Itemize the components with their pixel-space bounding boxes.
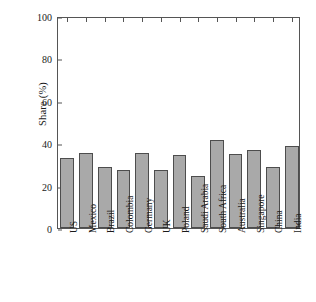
x-tick-label: India: [294, 213, 304, 233]
x-tick-label: Colombia: [126, 196, 136, 233]
x-tick-mark-top: [217, 18, 218, 22]
x-tick-mark-top: [105, 18, 106, 22]
x-tick-mark-top: [180, 18, 181, 22]
bar-chart-figure: Share (%) 020406080100 USMexicoBrazilCol…: [0, 0, 316, 302]
y-tick-label: 20: [42, 183, 58, 193]
x-tick-label: China: [275, 210, 285, 233]
x-tick-mark-top: [161, 18, 162, 22]
x-tick-mark-top: [254, 18, 255, 22]
x-tick-label: US: [70, 221, 80, 233]
x-tick-label: Saudi Arabia: [201, 184, 211, 233]
x-tick-mark-top: [236, 18, 237, 22]
x-tick-mark-top: [273, 18, 274, 22]
x-tick-label: Australia: [238, 198, 248, 233]
bar: [60, 158, 74, 228]
y-tick-mark: [58, 60, 62, 61]
x-tick-label: Germany: [145, 198, 155, 233]
x-tick-label: Singapore: [257, 194, 267, 233]
y-tick-mark: [58, 230, 62, 231]
y-tick-mark: [58, 145, 62, 146]
x-tick-label: Poland: [182, 207, 192, 233]
x-tick-mark-top: [198, 18, 199, 22]
y-tick-mark: [58, 102, 62, 103]
x-tick-mark-top: [67, 18, 68, 22]
x-tick-label: South Africa: [219, 185, 229, 233]
x-tick-mark-top: [86, 18, 87, 22]
x-tick-mark-top: [292, 18, 293, 22]
x-tick-label: Mexico: [89, 204, 99, 233]
y-tick-label: 60: [42, 98, 58, 108]
y-tick-label: 80: [42, 55, 58, 65]
y-tick-label: 100: [37, 13, 58, 23]
y-tick-mark: [58, 18, 62, 19]
x-tick-label: Brazil: [107, 210, 117, 233]
x-tick-label: UK: [163, 219, 173, 233]
x-tick-mark-top: [123, 18, 124, 22]
x-tick-mark-top: [142, 18, 143, 22]
y-tick-label: 40: [42, 140, 58, 150]
y-tick-label: 0: [47, 225, 58, 235]
